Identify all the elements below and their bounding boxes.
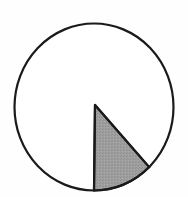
circle-sector-figure: Circle with shaded sector A plain circle…	[0, 0, 188, 197]
vertical-radius-line	[94, 105, 95, 191]
figure-container: Circle with shaded sector A plain circle…	[0, 0, 188, 197]
